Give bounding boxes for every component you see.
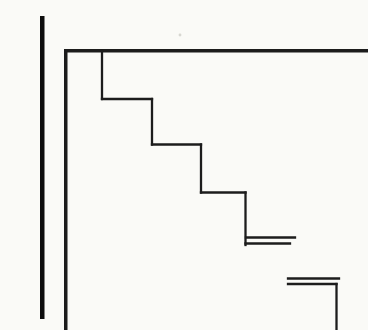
paper-speck <box>179 34 182 37</box>
diagram-svg <box>40 16 368 330</box>
scanned-staircase-diagram <box>40 16 368 330</box>
page-edge-bar <box>40 16 45 319</box>
